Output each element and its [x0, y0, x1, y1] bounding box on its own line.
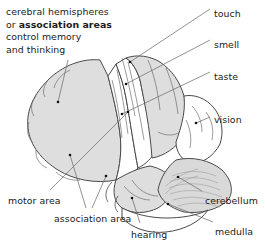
- label-medulla: medulla: [215, 226, 253, 238]
- dot-smell: [125, 83, 128, 86]
- leader-touch: [130, 9, 210, 62]
- label-hearing: hearing: [131, 229, 167, 241]
- dot-assoc-2: [105, 175, 108, 178]
- caption-line-2: or association areas: [6, 19, 112, 32]
- label-association-area: association area: [54, 213, 131, 225]
- figure-brain-diagram: cerebral hemispheres or association area…: [0, 0, 265, 249]
- label-vision: vision: [214, 114, 242, 126]
- label-taste: taste: [214, 71, 238, 83]
- dot-assoc-1: [69, 154, 72, 157]
- caption-cerebral-hemispheres: cerebral hemispheres or association area…: [6, 6, 112, 56]
- caption-line-2-prefix: or: [6, 19, 19, 30]
- dot-cerebellum: [177, 176, 180, 179]
- dot-hearing: [131, 197, 134, 200]
- caption-line-4: and thinking: [6, 44, 112, 57]
- label-cerebellum: cerebellum: [205, 195, 258, 207]
- dot-touch: [129, 61, 132, 64]
- label-motor-area: motor area: [8, 195, 61, 207]
- dot-taste: [121, 113, 124, 116]
- dot-medulla: [167, 203, 170, 206]
- caption-line-3: control memory: [6, 31, 112, 44]
- dot-motor: [127, 111, 130, 114]
- caption-line-1: cerebral hemispheres: [6, 6, 112, 19]
- dot-vision: [195, 122, 198, 125]
- dot-caption: [57, 101, 60, 104]
- region-frontal-association: [28, 60, 121, 182]
- label-touch: touch: [214, 8, 241, 20]
- label-smell: smell: [214, 39, 239, 51]
- caption-line-2-bold: association areas: [19, 19, 112, 30]
